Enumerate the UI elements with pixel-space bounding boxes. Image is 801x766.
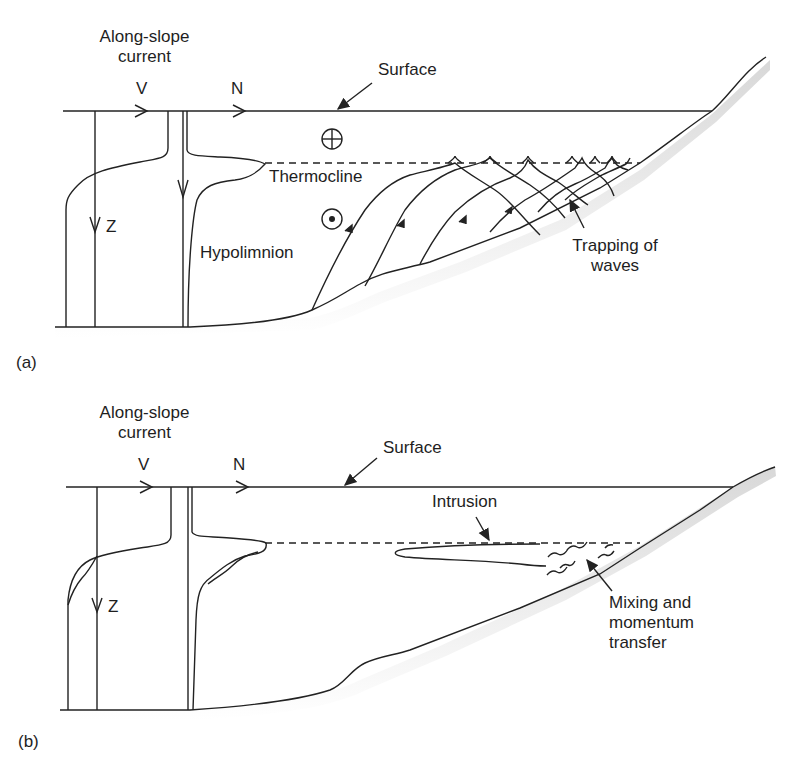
velocity-profile-a	[66, 111, 168, 327]
z-label-a: Z	[106, 217, 116, 237]
panel-label-a: (a)	[16, 353, 37, 373]
intrusion-lens	[395, 544, 546, 566]
ray-arrow-3	[459, 216, 466, 224]
intrusion-pointer	[476, 517, 489, 540]
panel-a	[55, 57, 770, 338]
hypolimnion-label: Hypolimnion	[200, 243, 294, 263]
surface-pointer-b	[345, 458, 377, 485]
n-label-a: N	[231, 79, 243, 99]
surface-label-b: Surface	[383, 438, 442, 458]
along-slope-label-b: Along-slope current	[82, 403, 207, 443]
wave-ray-5	[538, 158, 628, 212]
v-label-b: V	[138, 455, 149, 475]
buoyancy-profile-b	[192, 487, 266, 710]
lakebed-shading-a	[55, 60, 770, 338]
thermocline-label: Thermocline	[269, 167, 363, 187]
v-label-a: V	[136, 79, 147, 99]
mixing-label: Mixing and momentum transfer	[609, 593, 694, 653]
trapping-label: Trapping of waves	[560, 236, 670, 276]
ray-arrow-4	[505, 207, 512, 214]
panel-b	[60, 458, 776, 720]
buoyancy-profile-a	[187, 111, 265, 327]
buoyancy-profile-perturbed-b	[208, 552, 258, 584]
panel-label-b: (b)	[18, 732, 39, 752]
wave-ray-4	[490, 158, 614, 232]
along-slope-label-a: Along-slope current	[82, 27, 207, 67]
lakebed-b	[60, 467, 775, 710]
wave-cusps-a	[448, 156, 617, 163]
intrusion-label: Intrusion	[432, 492, 497, 512]
z-label-b: Z	[108, 597, 118, 617]
n-label-b: N	[233, 455, 245, 475]
surface-label-a: Surface	[378, 60, 437, 80]
surface-pointer-a	[338, 83, 372, 109]
velocity-profile-b	[68, 487, 171, 710]
ray-arrow-1	[345, 225, 352, 233]
